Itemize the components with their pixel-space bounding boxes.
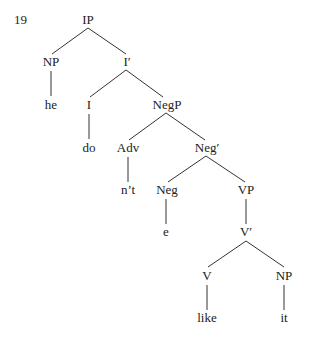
node-v-bar: V′ <box>240 224 252 240</box>
node-v: V <box>202 268 211 284</box>
node-negp: NegP <box>153 97 182 113</box>
node-np-object: NP <box>276 268 293 284</box>
node-i: I <box>87 97 91 113</box>
node-vp: VP <box>238 182 255 198</box>
node-neg-bar: Neg′ <box>195 140 220 156</box>
node-np-subject: NP <box>43 54 60 70</box>
node-ip: IP <box>82 12 94 28</box>
node-neg: Neg <box>156 182 178 198</box>
leaf-do: do <box>83 140 96 156</box>
tree-edges <box>0 0 310 342</box>
node-adv: Adv <box>117 140 139 156</box>
leaf-it: it <box>280 310 287 326</box>
leaf-like: like <box>197 310 217 326</box>
leaf-e: e <box>163 224 169 240</box>
syntax-tree-diagram: 19 IP NP he I′ I do NegP Adv n’t Neg′ Ne… <box>0 0 310 342</box>
leaf-nt: n’t <box>121 182 135 198</box>
leaf-he: he <box>45 97 57 113</box>
node-i-bar: I′ <box>123 54 130 70</box>
example-number: 19 <box>14 12 27 28</box>
